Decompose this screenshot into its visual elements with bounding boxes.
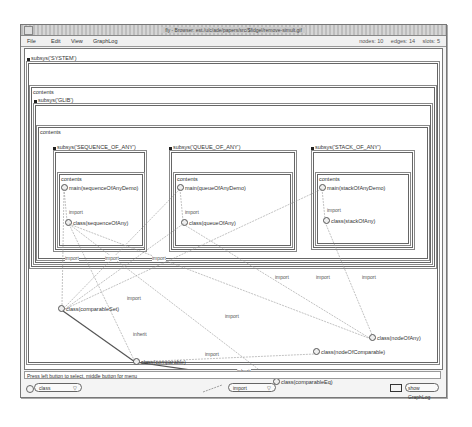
status-bar: Press left button to select, middle butt… [24, 371, 441, 379]
menu-edit[interactable]: Edit [51, 36, 60, 46]
edge-label-import: import [105, 255, 119, 261]
node-class-comparable[interactable]: class(comparable) [133, 358, 186, 366]
edge-label-import: import [225, 313, 239, 319]
menu-file[interactable]: File [27, 36, 36, 46]
nodes-count: nodes: 10 [359, 38, 383, 44]
class-icon [58, 305, 65, 312]
node-type-icon [26, 385, 34, 393]
node-class-comparableset[interactable]: class(comparableSet) [58, 305, 119, 313]
edges-count: edges: 14 [391, 38, 415, 44]
graph-edges [25, 49, 442, 369]
menu-graphlog[interactable]: GraphLog [93, 36, 117, 46]
show-graphlog-button[interactable]: show GraphLog [405, 383, 439, 392]
edge-label-inherit: inherit [133, 331, 147, 337]
browser-window: fly - Browser: est./u/c/ade/papers/src/$… [20, 24, 447, 398]
node-type-select[interactable]: class▽ [34, 383, 82, 392]
class-icon [369, 334, 376, 341]
edge-label-import: import [316, 274, 330, 280]
node-class-nodeofcomparable[interactable]: class(nodeOfComparable) [313, 348, 385, 356]
edge-type-icon [202, 383, 224, 393]
menu-view[interactable]: View [71, 36, 83, 46]
graph-stats: nodes: 10 edges: 14 slots: 5 [353, 36, 440, 46]
chevron-down-icon: ▽ [73, 384, 77, 393]
graph-canvas[interactable]: subsys('SYSTEM') contents subsys('GLIB')… [24, 48, 443, 370]
edge-type-select[interactable]: import▽ [228, 383, 276, 392]
class-icon [313, 348, 320, 355]
edge-label-import: import [127, 295, 141, 301]
edge-label-import: import [65, 255, 79, 261]
menu-bar: File Edit View GraphLog nodes: 10 edges:… [21, 36, 446, 47]
edge-label-import: import [275, 274, 289, 280]
overview-box-icon[interactable] [390, 384, 402, 392]
slots-count: slots: 5 [423, 38, 440, 44]
edge-label-import: import [152, 255, 166, 261]
class-icon [133, 358, 140, 365]
window-title: fly - Browser: est./u/c/ade/papers/src/$… [161, 27, 306, 33]
bottom-toolbar: class▽ import▽ show GraphLog [24, 381, 441, 395]
chevron-down-icon: ▽ [267, 384, 271, 393]
node-class-nodeofany[interactable]: class(nodeOfAny) [369, 334, 421, 342]
edge-label-import: import [362, 274, 376, 280]
title-bar[interactable]: fly - Browser: est./u/c/ade/papers/src/$… [21, 25, 446, 36]
edge-label-import: import [205, 351, 219, 357]
